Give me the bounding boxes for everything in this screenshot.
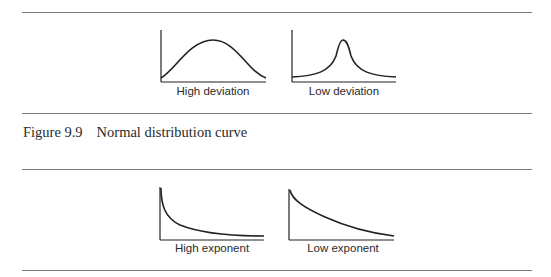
bottom-rule <box>22 270 532 271</box>
gentle-decay-curve <box>290 190 394 236</box>
plot-high-exponent <box>160 187 264 240</box>
wide-bell-curve <box>161 40 266 78</box>
label-high-deviation: High deviation <box>177 85 250 97</box>
figure-exponent-decay: High exponent Low exponent <box>0 170 551 270</box>
figure-number: Figure 9.9 <box>23 124 83 141</box>
normal-distribution-plots <box>0 0 551 113</box>
figure-rule-upper <box>22 113 532 114</box>
label-low-deviation: Low deviation <box>309 85 379 97</box>
figure-normal-distribution: High deviation Low deviation <box>0 0 551 113</box>
plot-high-deviation <box>161 30 266 82</box>
narrow-bell-curve <box>292 40 396 77</box>
steep-decay-curve <box>161 188 264 236</box>
plot-low-exponent <box>289 189 394 240</box>
figure-title: Normal distribution curve <box>97 124 248 140</box>
figure-caption: Figure 9.9Normal distribution curve <box>23 124 247 141</box>
label-high-exponent: High exponent <box>175 242 249 254</box>
plot-low-deviation <box>292 30 396 82</box>
label-low-exponent: Low exponent <box>307 242 379 254</box>
exponent-decay-plots <box>0 170 551 270</box>
